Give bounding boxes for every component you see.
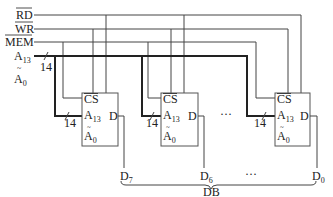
chip1-cs: CS xyxy=(84,92,99,106)
mem-tap-chip2 xyxy=(148,42,161,98)
d0-label: D0 xyxy=(312,169,325,185)
address-bus-main xyxy=(34,56,275,116)
chip2-d: D xyxy=(188,109,197,123)
data-ellipsis: ··· xyxy=(245,167,257,181)
data-bus-label: DB xyxy=(203,185,220,197)
mem-label: MEM xyxy=(5,35,34,49)
chip1-bus-width: 14 xyxy=(64,116,76,130)
chip3-data-out xyxy=(310,116,317,168)
mem-line xyxy=(34,42,275,98)
address-bus xyxy=(34,52,275,120)
chip1-data-out xyxy=(118,116,124,168)
address-bus-chip1 xyxy=(55,56,82,116)
rd-label: RD xyxy=(16,8,33,22)
chip2-bus-width: 14 xyxy=(146,116,158,130)
address-bus-chip2 xyxy=(142,56,161,116)
chip2-cs: CS xyxy=(163,92,178,106)
addr-lo-label: A0 xyxy=(14,72,27,88)
mem-tap-chip1 xyxy=(63,42,82,98)
d7-label: D7 xyxy=(120,169,133,185)
addr-hi-label: A13 xyxy=(14,49,31,65)
memory-chip-1: CS A13 ~ A0 D 14 D7 xyxy=(64,92,133,185)
chip3-d: D xyxy=(300,109,309,123)
memory-expansion-diagram: RD WR MEM A13 ~ A0 14 CS A13 ~ A0 D 14 D… xyxy=(0,0,333,197)
chip1-d: D xyxy=(109,109,118,123)
wr-label: WR xyxy=(15,22,34,36)
rd-line xyxy=(34,15,301,93)
chip2-data-out xyxy=(198,116,204,168)
chip3-cs: CS xyxy=(277,92,292,106)
chips-ellipsis: ··· xyxy=(220,107,232,121)
chip3-bus-width: 14 xyxy=(254,116,266,130)
signal-labels: RD WR MEM A13 ~ A0 14 xyxy=(5,8,52,88)
memory-chip-2: CS A13 ~ A0 D 14 D6 xyxy=(146,92,213,185)
d6-label: D6 xyxy=(200,169,213,185)
bus-width-label: 14 xyxy=(40,60,52,74)
wr-line xyxy=(34,29,288,93)
memory-chip-3: CS A13 ~ A0 D 14 D0 xyxy=(254,92,325,185)
